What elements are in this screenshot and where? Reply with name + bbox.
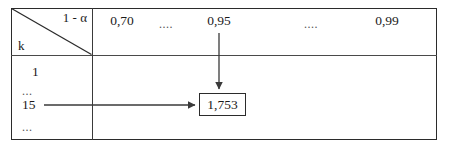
column-header-2: 0,95 — [194, 12, 244, 29]
row-label-3: ... — [22, 119, 33, 135]
row-variable-label: k — [18, 38, 25, 54]
corner-header-cell: 1 - α k — [11, 8, 92, 55]
header-body-divider — [11, 55, 437, 56]
highlighted-value-text: 1,753 — [207, 97, 237, 113]
row-label-column-divider — [92, 8, 93, 140]
column-header-3: .... — [291, 16, 331, 33]
highlighted-value-box: 1,753 — [199, 93, 246, 116]
row-label-2: 15 — [22, 97, 36, 113]
confidence-level-label: 1 - α — [63, 10, 87, 26]
column-header-1: .... — [146, 16, 186, 33]
column-header-0: 0,70 — [97, 12, 147, 29]
figure-canvas: 1 - α k 0,70 .... 0,95 .... 0,99 1 ... 1… — [0, 0, 449, 152]
row-label-0: 1 — [32, 64, 39, 80]
column-header-4: 0,99 — [362, 12, 412, 29]
